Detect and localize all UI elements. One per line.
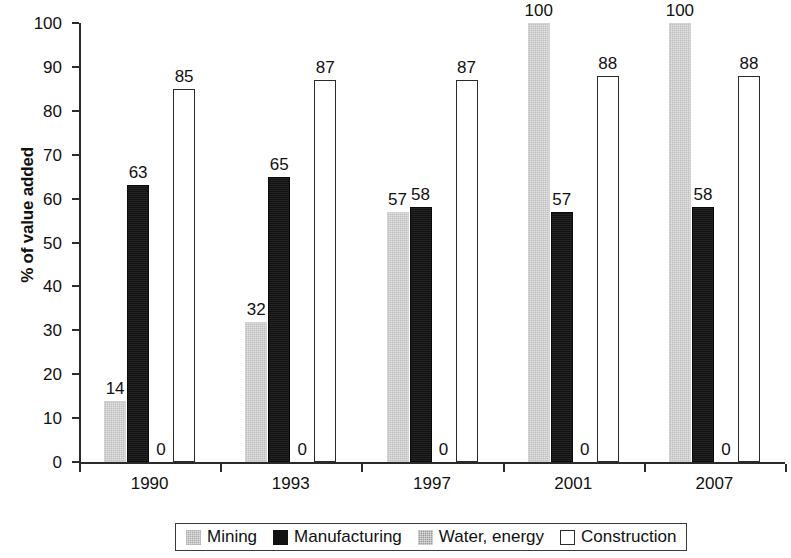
bar-value-label: 0	[140, 441, 182, 458]
bar-value-label: 0	[705, 441, 747, 458]
bar-1990-manufacturing	[127, 185, 149, 462]
construction-swatch-icon	[560, 530, 575, 545]
bar-value-label: 58	[400, 186, 442, 203]
bar-2007-manufacturing	[692, 207, 714, 462]
plot-area	[79, 23, 785, 462]
x-axis-tick-mark	[79, 464, 81, 472]
x-axis-tick-mark	[220, 464, 222, 472]
bar-value-label: 87	[304, 59, 346, 76]
x-axis-tick-mark	[503, 464, 505, 472]
y-axis-tick-mark	[72, 242, 79, 244]
legend-label: Mining	[207, 527, 257, 547]
bar-value-label: 63	[117, 164, 159, 181]
y-axis-tick-label: 20	[16, 366, 62, 383]
x-axis-label-1990: 1990	[79, 474, 220, 494]
water-energy-swatch-icon	[418, 530, 433, 545]
bar-1997-manufacturing	[410, 207, 432, 462]
legend-item-water-energy[interactable]: Water, energy	[418, 527, 544, 547]
bar-value-label: 0	[423, 441, 465, 458]
y-axis-tick-mark	[72, 154, 79, 156]
bar-1990-mining	[104, 401, 126, 462]
x-axis-label-2001: 2001	[503, 474, 644, 494]
legend-item-construction[interactable]: Construction	[560, 527, 676, 547]
y-axis-tick-label: 30	[16, 322, 62, 339]
y-axis-tick-mark	[72, 417, 79, 419]
legend-label: Construction	[581, 527, 676, 547]
y-axis-tick-label: 50	[16, 234, 62, 251]
x-axis-label-2007: 2007	[644, 474, 785, 494]
legend-label: Manufacturing	[294, 527, 402, 547]
x-axis-label-1997: 1997	[361, 474, 502, 494]
y-axis-tick-label: 100	[16, 15, 62, 32]
y-axis-tick-label: 90	[16, 58, 62, 75]
y-axis-tick-mark	[72, 461, 79, 463]
bar-value-label: 88	[728, 55, 770, 72]
bar-value-label: 0	[281, 441, 323, 458]
y-axis-tick-mark	[72, 329, 79, 331]
y-axis-tick-label: 60	[16, 190, 62, 207]
bar-1997-construction	[456, 80, 478, 462]
bar-value-label: 87	[446, 59, 488, 76]
bar-2007-mining	[669, 23, 691, 462]
bar-1993-mining	[245, 322, 267, 462]
bar-value-label: 57	[541, 191, 583, 208]
y-axis-tick-mark	[72, 198, 79, 200]
y-axis-tick-mark	[72, 110, 79, 112]
mining-swatch-icon	[186, 530, 201, 545]
bar-2001-construction	[597, 76, 619, 462]
bar-value-label: 100	[518, 2, 560, 19]
bar-2001-manufacturing	[551, 212, 573, 462]
bar-chart: % of value added 0102030405060708090100 …	[0, 0, 791, 558]
bar-value-label: 0	[564, 441, 606, 458]
x-axis-tick-mark	[785, 464, 787, 472]
x-axis-tick-mark	[361, 464, 363, 472]
bar-1993-manufacturing	[268, 177, 290, 462]
bar-2001-mining	[528, 23, 550, 462]
bar-1993-construction	[314, 80, 336, 462]
y-axis-tick-mark	[72, 285, 79, 287]
bar-value-label: 88	[587, 55, 629, 72]
legend-label: Water, energy	[439, 527, 544, 547]
y-axis-tick-label: 80	[16, 102, 62, 119]
bar-value-label: 100	[659, 2, 701, 19]
bar-2007-construction	[738, 76, 760, 462]
chart-legend: MiningManufacturingWater, energyConstruc…	[175, 523, 687, 551]
manufacturing-swatch-icon	[273, 530, 288, 545]
bar-value-label: 85	[163, 68, 205, 85]
x-axis-tick-mark	[644, 464, 646, 472]
y-axis-tick-mark	[72, 22, 79, 24]
bar-1997-mining	[387, 212, 409, 462]
bar-value-label: 32	[235, 301, 277, 318]
x-axis-label-1993: 1993	[220, 474, 361, 494]
legend-item-manufacturing[interactable]: Manufacturing	[273, 527, 402, 547]
y-axis-tick-label: 40	[16, 278, 62, 295]
y-axis-ticks: 0102030405060708090100	[0, 0, 62, 558]
bar-value-label: 58	[682, 186, 724, 203]
bar-1990-construction	[173, 89, 195, 462]
bar-value-label: 14	[94, 380, 136, 397]
bar-value-label: 65	[258, 156, 300, 173]
legend-item-mining[interactable]: Mining	[186, 527, 257, 547]
y-axis-tick-label: 0	[16, 454, 62, 471]
x-axis-line	[79, 462, 785, 464]
y-axis-tick-label: 70	[16, 146, 62, 163]
y-axis-tick-mark	[72, 66, 79, 68]
y-axis-tick-mark	[72, 373, 79, 375]
y-axis-tick-label: 10	[16, 410, 62, 427]
